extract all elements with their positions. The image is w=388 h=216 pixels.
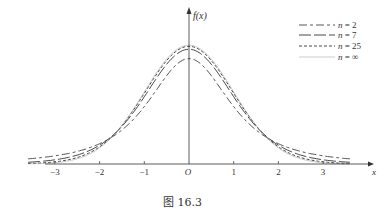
x-tick-label: 2 bbox=[276, 167, 281, 177]
t-distribution-chart: −3−2−1123Oxf(x)n = 2n = 7n = 25n = ∞ bbox=[0, 0, 388, 216]
legend-label: n = 25 bbox=[338, 41, 362, 51]
x-tick-label: −1 bbox=[140, 167, 150, 177]
origin-label: O bbox=[185, 167, 192, 177]
y-axis-label: f(x) bbox=[193, 10, 208, 22]
y-axis-arrow-icon bbox=[187, 7, 192, 14]
x-tick-label: 1 bbox=[231, 167, 236, 177]
legend-label: n = 7 bbox=[338, 30, 357, 40]
x-tick-label: −3 bbox=[50, 167, 60, 177]
figure-caption: 图 16.3 bbox=[163, 193, 202, 209]
x-tick-label: 3 bbox=[321, 167, 326, 177]
x-axis-arrow-icon bbox=[368, 162, 374, 167]
legend-label: n = ∞ bbox=[338, 52, 359, 62]
x-tick-label: −2 bbox=[95, 167, 105, 177]
legend-label: n = 2 bbox=[338, 20, 357, 30]
x-axis-label: x bbox=[371, 167, 376, 177]
